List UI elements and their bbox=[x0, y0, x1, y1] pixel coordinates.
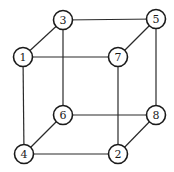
edges bbox=[23, 19, 156, 154]
node-3: 3 bbox=[54, 11, 73, 30]
node-label: 2 bbox=[115, 148, 122, 161]
node-label: 8 bbox=[153, 109, 160, 122]
node-8: 8 bbox=[147, 106, 166, 125]
node-2: 2 bbox=[109, 145, 128, 164]
node-4: 4 bbox=[15, 145, 34, 164]
edge-3-5 bbox=[63, 19, 156, 20]
node-6: 6 bbox=[54, 106, 73, 125]
node-label: 5 bbox=[153, 13, 160, 26]
node-7: 7 bbox=[109, 48, 128, 67]
node-label: 1 bbox=[20, 51, 27, 64]
node-label: 4 bbox=[21, 148, 28, 161]
edge-1-4 bbox=[23, 57, 24, 154]
node-5: 5 bbox=[147, 10, 166, 29]
node-label: 7 bbox=[115, 51, 122, 64]
node-label: 6 bbox=[60, 109, 67, 122]
node-1: 1 bbox=[14, 48, 33, 67]
cube-graph-diagram: 12345678 bbox=[0, 0, 174, 172]
node-label: 3 bbox=[60, 14, 67, 27]
